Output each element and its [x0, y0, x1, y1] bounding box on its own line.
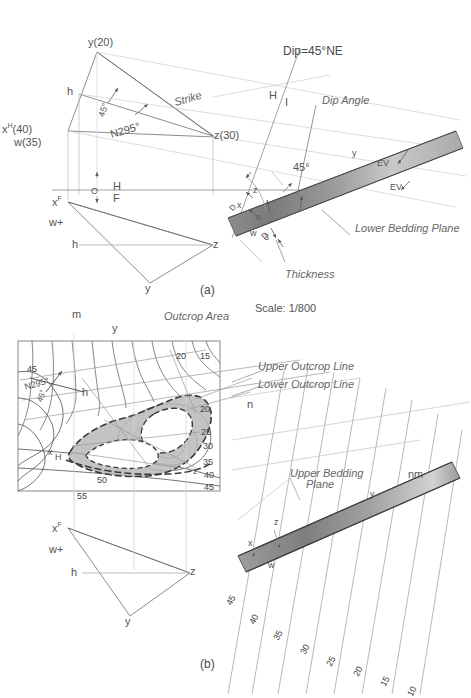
front-edge-xz-b: [68, 528, 190, 573]
label-x-band-a: x: [237, 200, 242, 210]
label-h-map: h: [82, 386, 88, 398]
label-H-map: H: [55, 452, 62, 462]
label-h-top-view: h: [67, 85, 73, 97]
aux-ref-1: [240, 240, 262, 262]
label-nm-b: nm: [408, 468, 423, 480]
strike-45: [228, 370, 284, 694]
ev-lower-arrow: [401, 181, 410, 190]
label-x-front-a: xF: [52, 195, 62, 208]
label-w-band-b: w: [268, 560, 275, 570]
bedding-slab: [228, 131, 463, 236]
label-upper-outcrop-line: Upper Outcrop Line: [258, 360, 354, 372]
label-n-b: n: [247, 398, 253, 410]
contour-label-45b: 45: [204, 482, 214, 492]
label-fold-H-front: H: [113, 180, 121, 192]
label-o-dim: O: [91, 186, 98, 196]
label-w-band-a: w: [250, 228, 257, 238]
label-ev-lower: EV: [390, 182, 402, 192]
contour-label-40: 40: [204, 470, 214, 480]
label-fold-H-a: H: [269, 89, 277, 101]
label-x-band-b: x: [248, 538, 253, 548]
panel-b-front-view: [68, 491, 190, 616]
contour-label-30: 30: [203, 441, 213, 451]
front-triangle-b: [68, 528, 190, 616]
panel-a-bedding-band: [228, 131, 463, 236]
label-outcrop-area: Outcrop Area: [164, 310, 229, 322]
strike-15: [392, 414, 438, 694]
lower-bedding-leader: [322, 210, 350, 235]
contour-label-25: 25: [201, 427, 211, 437]
label-z-map: z: [193, 466, 198, 476]
thickness-arrow-1: [271, 228, 276, 238]
panel-a-title: Dip=45°NE: [283, 44, 343, 58]
label-x-top-view: xH(40): [2, 122, 32, 135]
label-z-band-b: z: [274, 517, 279, 527]
contour-label-20a: 20: [176, 351, 186, 361]
label-scale: Scale: 1/800: [255, 302, 316, 314]
label-thickness: Thickness: [285, 268, 335, 280]
panel-b-right-construction: [228, 368, 470, 694]
label-y-band-a: y: [352, 148, 357, 158]
label-z-front-a: z: [213, 238, 219, 250]
label-y-front-a: y: [145, 282, 151, 294]
label-z-front-b: z: [190, 565, 196, 577]
label-h-front-b: h: [71, 566, 77, 578]
strike-20: [362, 400, 412, 694]
label-fold-F-front: F: [113, 192, 120, 204]
label-z-top-view: z(30): [214, 129, 239, 141]
contour-label-15: 15: [200, 351, 210, 361]
strike-25: [334, 388, 386, 694]
panel-a-caption: (a): [200, 283, 215, 297]
label-w-top-view: w(35): [14, 136, 42, 148]
label-upper-bedding-plane: Upper Bedding Plane: [290, 468, 363, 490]
label-x-map: x: [48, 447, 53, 457]
label-h-front-a: h: [72, 238, 78, 250]
panel-a-front-view: [68, 202, 213, 283]
contour-label-20b: 20: [200, 404, 210, 414]
label-y-front-b: y: [125, 615, 131, 627]
ref-line-y: [97, 52, 460, 120]
label-45-aux: 45°: [293, 161, 310, 173]
contour-label-50: 50: [97, 475, 107, 485]
label-z-band-a: z: [253, 185, 258, 195]
front-triangle: [68, 202, 213, 283]
panel-a-top-view: [68, 52, 215, 200]
label-lower-outcrop-line: Lower Outcrop Line: [258, 378, 354, 390]
label-n-band-a: n: [256, 212, 261, 222]
dip-angle-leader2: [283, 183, 292, 192]
label-fold-I-a: I: [285, 96, 288, 108]
label-ev-upper: EV: [377, 158, 389, 168]
contour-label-45a: 45: [27, 364, 37, 374]
panel-b-outcrop-area: [66, 395, 212, 476]
dip-direction-arrow: [108, 88, 118, 103]
angle-arc-leader: [272, 172, 283, 185]
arc-arrow: [246, 172, 251, 178]
label-m-b: m: [72, 308, 81, 320]
label-lower-bedding-plane: Lower Bedding Plane: [355, 222, 460, 234]
label-w-front-b: w+: [49, 543, 63, 555]
panel-b-caption: (b): [200, 657, 215, 671]
label-y-band-b: y: [370, 489, 375, 499]
label-x-front-b: xF: [52, 521, 62, 534]
label-w-front-a: w+: [49, 216, 63, 228]
label-y-top-view: y(20): [88, 36, 113, 48]
contour-label-35: 35: [203, 457, 213, 467]
ref-nm-b: [232, 402, 470, 440]
contour-label-55: 55: [77, 491, 87, 501]
ref-line-b3: [232, 440, 420, 470]
label-y-map: y: [112, 322, 118, 334]
label-dip-angle-callout: Dip Angle: [322, 94, 369, 106]
